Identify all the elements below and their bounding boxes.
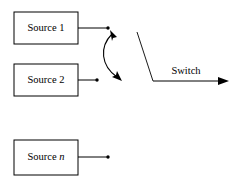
- switch-group[interactable]: Switch: [137, 32, 229, 85]
- source-n-group[interactable]: Source n: [14, 140, 110, 175]
- switch-lever-line: [137, 32, 153, 81]
- diagram-canvas: Source 1 Source 2 Source n: [0, 0, 234, 188]
- source-2-label-prefix: Source: [27, 74, 59, 85]
- source-n-label-prefix: Source: [27, 151, 59, 162]
- selector-arrowhead-down-icon: [112, 71, 122, 81]
- source-1-terminal-dot: [106, 26, 109, 29]
- source-n-label-index: n: [59, 151, 64, 162]
- source-n-terminal-dot: [106, 155, 109, 158]
- selector-double-arrow-group[interactable]: [103, 30, 122, 81]
- source-2-label-index: 2: [59, 74, 64, 85]
- source-n-label: Source n: [27, 151, 64, 162]
- source-1-label-prefix: Source: [27, 22, 59, 33]
- source-1-label: Source 1: [27, 22, 64, 33]
- selector-arrowhead-up-icon: [110, 30, 117, 41]
- source-1-label-index: 1: [59, 22, 64, 33]
- selector-arc-path: [103, 34, 117, 77]
- source-2-label: Source 2: [27, 74, 64, 85]
- switch-output-arrowhead-icon: [218, 77, 229, 85]
- switch-block-diagram: Source 1 Source 2 Source n: [0, 0, 234, 188]
- switch-label: Switch: [171, 65, 201, 76]
- source-1-group[interactable]: Source 1: [14, 12, 110, 44]
- source-2-group[interactable]: Source 2: [14, 64, 99, 96]
- source-2-terminal-dot: [95, 78, 98, 81]
